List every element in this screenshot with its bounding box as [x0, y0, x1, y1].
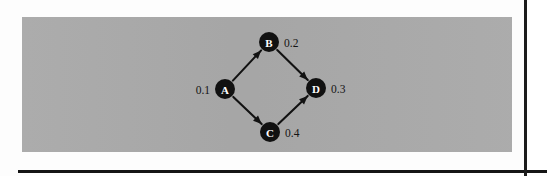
node-weight-label-b: 0.2 — [284, 37, 299, 49]
graph-edge-a-c — [233, 97, 261, 124]
node-weight-label-d: 0.3 — [331, 83, 346, 95]
node-letter-b: B — [265, 37, 273, 49]
graph-edge-c-d — [278, 96, 307, 124]
graph-node-b[interactable]: B — [259, 32, 279, 52]
node-weight-label-a: 0.1 — [196, 84, 211, 96]
graph-edges-group — [233, 50, 308, 124]
node-letter-a: A — [221, 84, 229, 96]
graph-nodes-group: ABCD — [215, 32, 326, 142]
node-weight-label-c: 0.4 — [285, 127, 300, 139]
graph-edge-b-d — [277, 50, 308, 80]
graph-node-d[interactable]: D — [306, 78, 326, 98]
page-right-margin — [527, 0, 547, 170]
graph-node-c[interactable]: C — [260, 122, 280, 142]
scanned-page: ABCD 0.10.20.40.3 — [0, 0, 547, 176]
node-letter-d: D — [312, 83, 320, 95]
directed-graph: ABCD 0.10.20.40.3 — [0, 0, 547, 176]
graph-node-a[interactable]: A — [215, 79, 235, 99]
graph-edge-a-b — [233, 50, 261, 80]
node-letter-c: C — [266, 127, 274, 139]
page-right-rule — [524, 0, 527, 176]
page-bottom-rule — [18, 170, 547, 173]
